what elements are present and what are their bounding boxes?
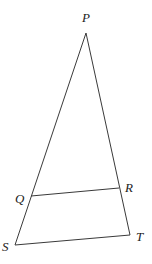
segment-pt <box>86 33 130 235</box>
segment-ps <box>15 33 86 245</box>
triangle-diagram: P Q R S T <box>0 0 152 264</box>
label-p: P <box>81 10 90 25</box>
segment-qr <box>31 188 119 196</box>
diagram-svg: P Q R S T <box>0 0 152 264</box>
label-t: T <box>136 229 144 244</box>
label-s: S <box>2 239 9 254</box>
label-r: R <box>124 180 133 195</box>
segment-st <box>15 235 130 245</box>
label-q: Q <box>15 191 25 206</box>
